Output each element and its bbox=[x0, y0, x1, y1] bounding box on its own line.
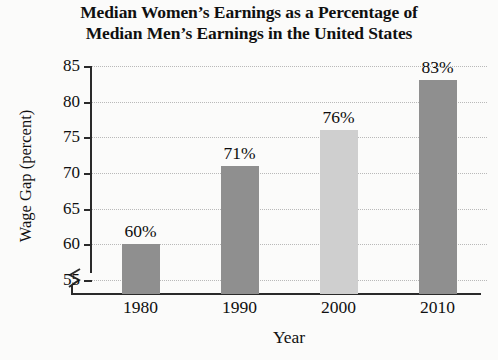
y-axis-tick bbox=[84, 209, 92, 211]
bar-value-label: 60% bbox=[124, 221, 156, 242]
x-tick-label: 1990 bbox=[202, 297, 278, 318]
y-axis-label: Wage Gap (percent) bbox=[16, 76, 36, 276]
x-tick-label: 1980 bbox=[103, 297, 179, 318]
x-axis-label: Year bbox=[91, 327, 487, 348]
y-tick-label: 85 bbox=[63, 56, 80, 76]
bar-value-label: 76% bbox=[322, 107, 354, 128]
y-tick-label: 80 bbox=[63, 91, 80, 111]
y-axis-tick bbox=[84, 137, 92, 139]
y-axis-tick bbox=[84, 173, 92, 175]
y-axis-tick bbox=[84, 244, 92, 246]
y-tick-label: 60 bbox=[63, 234, 80, 254]
y-tick-label: 70 bbox=[63, 163, 80, 183]
y-axis-tick bbox=[84, 66, 92, 68]
chart-figure: Median Women’s Earnings as a Percentage … bbox=[0, 0, 498, 360]
chart-title: Median Women’s Earnings as a Percentage … bbox=[0, 2, 498, 44]
chart-title-line-1: Median Women’s Earnings as a Percentage … bbox=[0, 2, 498, 23]
bar-value-label: 71% bbox=[223, 143, 255, 164]
y-axis-tick bbox=[84, 280, 92, 282]
bar[interactable]: 60% bbox=[122, 244, 160, 294]
bar[interactable]: 83% bbox=[419, 80, 457, 294]
y-tick-label: 75 bbox=[63, 127, 80, 147]
plot-area: 55606570758085 60%71%76%83% 198019902000… bbox=[91, 66, 487, 294]
chart-title-line-2: Median Men’s Earnings in the United Stat… bbox=[0, 23, 498, 44]
y-axis-tick bbox=[84, 102, 92, 104]
bar[interactable]: 76% bbox=[320, 130, 358, 294]
x-tick-label: 2000 bbox=[301, 297, 377, 318]
y-tick-label: 55 bbox=[63, 270, 80, 290]
bar[interactable]: 71% bbox=[221, 166, 259, 294]
x-tick-label: 2010 bbox=[400, 297, 476, 318]
bar-value-label: 83% bbox=[421, 57, 453, 78]
y-tick-label: 65 bbox=[63, 198, 80, 218]
